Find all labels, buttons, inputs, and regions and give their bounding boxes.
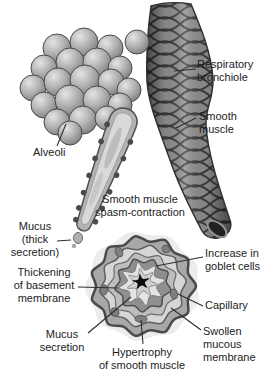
bronchiole-cross-section [85,232,199,341]
label-mucus-thick-secretion: Mucus (thick secretion) [8,220,62,259]
diagram-artwork [0,0,270,377]
mucus-drip [72,244,76,248]
alveolus [125,30,149,54]
label-smooth-muscle-spasm: Smooth muscle spasm-contraction [88,193,192,219]
label-respiratory-bronchiole: Respiratory bronchiole [197,58,259,84]
asthma-bronchiole-diagram: Respiratory bronchiole Smooth muscle Alv… [0,0,270,377]
label-mucus-secretion: Mucus secretion [36,328,88,354]
label-thickening-basement-membrane: Thickening of basement membrane [10,266,78,305]
label-capillary: Capillary [205,299,260,312]
label-smooth-muscle: Smooth muscle [199,110,249,136]
label-increase-goblet-cells: Increase in goblet cells [205,247,265,273]
mucus-plug [74,233,83,244]
label-alveoli: Alveoli [33,146,77,159]
label-hypertrophy-smooth-muscle: Hypertrophy of smooth muscle [90,346,194,372]
alveolus [58,121,82,145]
label-swollen-mucous-membrane: Swollen mucous membrane [203,325,263,364]
